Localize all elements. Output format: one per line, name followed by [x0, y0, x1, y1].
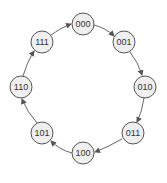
- state-node-010: 010: [134, 76, 156, 98]
- state-node-001: 001: [113, 31, 135, 53]
- edge-010-011: [137, 98, 144, 122]
- node-label: 011: [126, 128, 140, 138]
- edge-101-110: [22, 99, 37, 123]
- edge-001-010: [130, 52, 142, 75]
- edge-011-100: [95, 139, 122, 152]
- node-label: 111: [35, 37, 49, 47]
- node-label: 100: [75, 148, 90, 158]
- node-label: 000: [75, 19, 90, 29]
- state-diagram: 000 001 010 011 100 101 110 111: [0, 0, 167, 183]
- node-label: 010: [137, 82, 152, 92]
- edge-111-000: [51, 24, 71, 35]
- edge-100-101: [51, 141, 72, 153]
- state-node-111: 111: [31, 31, 53, 53]
- edge-000-001: [94, 25, 114, 36]
- state-node-000: 000: [72, 13, 94, 35]
- node-label: 101: [34, 128, 49, 138]
- state-node-110: 110: [10, 76, 32, 98]
- state-node-101: 101: [31, 122, 53, 144]
- node-label: 110: [14, 82, 28, 92]
- state-node-100: 100: [72, 142, 94, 164]
- node-label: 001: [116, 37, 131, 47]
- state-node-011: 011: [122, 122, 144, 144]
- edge-110-111: [23, 51, 34, 76]
